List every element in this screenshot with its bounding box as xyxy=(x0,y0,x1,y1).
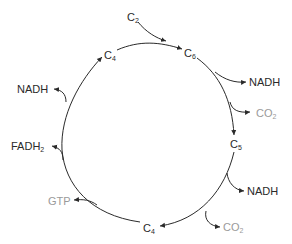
product-nadh-3: NADH xyxy=(17,83,48,95)
arrow-to-nadh-1 xyxy=(215,72,246,82)
arrow-c4-to-c6 xyxy=(117,43,182,50)
arrow-to-co2-2 xyxy=(206,211,220,227)
product-co2-1: CO2 xyxy=(256,107,276,119)
product-co2-2: CO2 xyxy=(223,221,243,233)
arrow-to-gtp xyxy=(74,200,97,205)
arrow-to-nadh-2 xyxy=(227,173,244,191)
product-gtp: GTP xyxy=(48,195,71,207)
node-c5: C5 xyxy=(230,138,242,150)
node-c4-top: C4 xyxy=(104,49,116,61)
product-fadh2: FADH2 xyxy=(11,140,44,152)
node-c6: C6 xyxy=(184,47,196,59)
arrow-c4-bottom-to-c4-top xyxy=(62,57,140,222)
product-nadh-1: NADH xyxy=(249,76,280,88)
node-c2: C2 xyxy=(127,11,139,23)
arrow-to-nadh-3 xyxy=(54,89,66,102)
node-c4-bottom: C4 xyxy=(143,222,155,234)
product-nadh-2: NADH xyxy=(247,185,278,197)
arrow-c5-to-c4-bottom xyxy=(160,152,234,226)
arrow-c6-to-c5 xyxy=(197,58,234,135)
arrow-c2-to-c6 xyxy=(138,22,166,41)
arrow-to-co2-1 xyxy=(230,102,250,112)
arrow-to-fadh2 xyxy=(52,146,63,160)
cycle-diagram xyxy=(0,0,292,244)
